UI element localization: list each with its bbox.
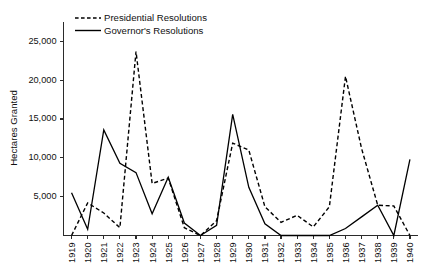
- x-tick-label: 1921: [99, 243, 109, 263]
- x-tick-label: 1919: [67, 243, 77, 263]
- x-tick-label: 1922: [115, 243, 125, 263]
- x-tick-label: 1926: [180, 243, 190, 263]
- x-tick-marks: 1919192019211922192319241925192619271928…: [67, 236, 415, 263]
- x-tick-label: 1937: [357, 243, 367, 263]
- y-tick-label: 10,000: [28, 152, 56, 162]
- x-tick-label: 1936: [341, 243, 351, 263]
- line-chart: Presidential ResolutionsGovernor's Resol…: [0, 0, 425, 274]
- x-tick-label: 1933: [293, 243, 303, 263]
- x-tick-label: 1925: [164, 243, 174, 263]
- y-tick-label: 5,000: [34, 191, 57, 201]
- x-tick-label: 1927: [196, 243, 206, 263]
- y-tick-label: 20,000: [28, 75, 56, 85]
- chart-container: Presidential ResolutionsGovernor's Resol…: [0, 0, 425, 274]
- series-line-presidential-resolutions: [72, 52, 410, 236]
- x-tick-label: 1934: [309, 243, 319, 263]
- legend-label: Governor's Resolutions: [104, 25, 204, 36]
- y-tick-label: 15,000: [28, 113, 56, 123]
- x-tick-label: 1932: [276, 243, 286, 263]
- x-tick-label: 1929: [228, 243, 238, 263]
- chart-legend: Presidential ResolutionsGovernor's Resol…: [75, 12, 207, 36]
- data-series: [72, 52, 410, 236]
- x-tick-label: 1938: [373, 243, 383, 263]
- x-tick-label: 1928: [212, 243, 222, 263]
- y-tick-marks: 5,00010,00015,00020,00025,000: [28, 36, 63, 201]
- legend-label: Presidential Resolutions: [104, 12, 207, 23]
- x-tick-label: 1940: [405, 243, 415, 263]
- series-line-governor-s-resolutions: [72, 114, 410, 235]
- x-tick-label: 1924: [148, 243, 158, 263]
- y-tick-label: 25,000: [28, 36, 56, 46]
- x-tick-label: 1939: [389, 243, 399, 263]
- x-tick-label: 1920: [83, 243, 93, 263]
- x-tick-label: 1923: [131, 243, 141, 263]
- y-axis-title: Hectares Granted: [8, 90, 19, 166]
- x-tick-label: 1931: [260, 243, 270, 263]
- y-axis: Hectares Granted: [8, 22, 64, 236]
- x-tick-label: 1935: [325, 243, 335, 263]
- x-tick-label: 1930: [244, 243, 254, 263]
